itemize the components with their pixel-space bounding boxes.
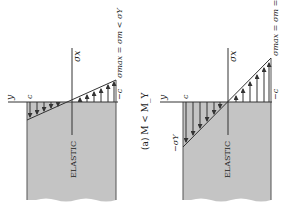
caption: (a) M < M_Y xyxy=(140,92,151,150)
bottom-label: −c xyxy=(271,88,280,100)
stress-distribution-figure: y c −c σx ELASTIC σmax = σm < σY (a) M <… xyxy=(0,0,284,212)
y-axis-label: y xyxy=(158,94,168,101)
equation: σmax = σm = σY xyxy=(271,0,280,56)
region-label: ELASTIC xyxy=(69,141,78,178)
x-axis-label: σx xyxy=(228,51,238,62)
top-label: c xyxy=(181,94,190,99)
side-label: −σY xyxy=(171,134,180,152)
top-label: c xyxy=(25,94,34,99)
bottom-label: −c xyxy=(115,88,124,100)
region-label: ELASTIC xyxy=(223,141,232,178)
y-axis-label: y xyxy=(5,94,15,101)
panel-right: y c −c σx ELASTIC σmax = σm = σY −σY xyxy=(158,0,280,202)
x-axis-label: σx xyxy=(72,51,82,62)
panel-left: y c −c σx ELASTIC σmax = σm < σY xyxy=(5,8,124,202)
equation: σmax = σm < σY xyxy=(115,8,124,78)
